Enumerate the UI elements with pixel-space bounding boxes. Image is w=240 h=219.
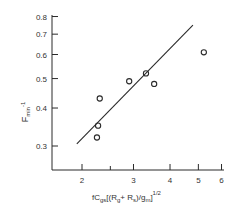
scatter-chart: 0.30.40.50.60.70.8 23456 Fmin-1 fCgs[(Rg…: [0, 0, 240, 219]
y-ticks: 0.30.40.50.60.70.8: [36, 13, 58, 151]
y-axis-label: Fmin-1: [20, 101, 31, 122]
x-tick-label: 5: [196, 176, 201, 185]
data-point: [94, 135, 99, 140]
y-tick-label: 0.4: [36, 104, 48, 113]
fit-line: [77, 25, 193, 144]
data-series: [77, 25, 207, 144]
y-tick-label: 0.6: [36, 51, 48, 60]
y-tick-label: 0.3: [36, 142, 48, 151]
data-point: [127, 79, 132, 84]
y-tick-label: 0.7: [36, 30, 48, 39]
x-ticks: 23456: [80, 164, 225, 185]
y-tick-label: 0.5: [36, 75, 48, 84]
y-tick-label: 0.8: [36, 13, 48, 22]
x-tick-label: 3: [131, 176, 136, 185]
data-point: [97, 96, 102, 101]
x-tick-label: 6: [219, 176, 224, 185]
data-point: [152, 81, 157, 86]
x-tick-label: 4: [168, 176, 173, 185]
x-tick-label: 2: [80, 176, 85, 185]
axes: [52, 15, 224, 170]
data-point: [201, 50, 206, 55]
x-axis-label: fCgs[(Rg+ Rs)/gm]1/2: [92, 190, 162, 203]
